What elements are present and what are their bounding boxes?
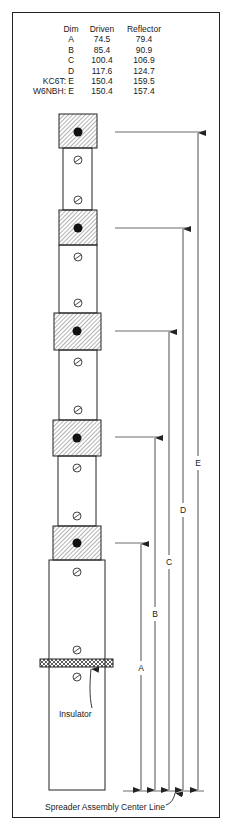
center-line-label: Spreader Assembly Center Line — [45, 802, 165, 813]
center-line-leader-arrow — [166, 793, 175, 805]
dim-label-e: E — [193, 456, 203, 470]
dimension-arrows — [141, 133, 198, 790]
element-drawing — [0, 0, 226, 829]
dim-label-a: A — [136, 661, 146, 675]
insulator-label: Insulator — [59, 709, 92, 720]
dim-label-b: B — [150, 607, 160, 621]
extension-lines — [115, 132, 205, 791]
dim-label-d: D — [178, 503, 188, 517]
dim-label-c: C — [164, 555, 174, 569]
insulator-band — [40, 659, 113, 667]
